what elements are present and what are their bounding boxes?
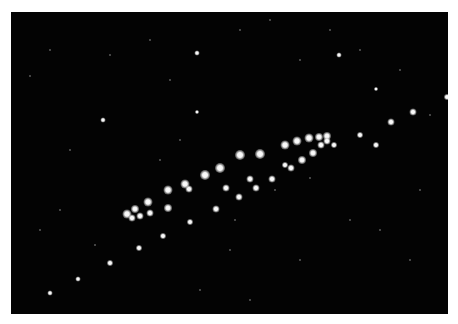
bright-star [373, 142, 379, 148]
bright-star [255, 149, 265, 159]
faint-star [29, 75, 31, 77]
faint-star [69, 149, 71, 151]
faint-star [229, 249, 231, 251]
bright-star [164, 186, 173, 195]
bright-star [144, 198, 153, 207]
bright-star [288, 165, 295, 172]
bright-star [215, 163, 225, 173]
bright-star [200, 170, 210, 180]
bright-star [236, 194, 243, 201]
bright-star [305, 134, 314, 143]
faint-star [169, 79, 171, 81]
bright-star [374, 87, 378, 91]
faint-star [234, 219, 236, 221]
bright-star [187, 219, 193, 225]
bright-star [101, 118, 106, 123]
faint-star [49, 49, 51, 51]
faint-star [109, 54, 111, 56]
bright-star [137, 213, 144, 220]
bright-star [160, 233, 166, 239]
bright-star [223, 185, 230, 192]
bright-star [388, 119, 395, 126]
faint-star [419, 189, 421, 191]
bright-star [309, 149, 317, 157]
faint-star [379, 229, 381, 231]
bright-star [444, 94, 448, 100]
faint-star [149, 39, 151, 41]
bright-star [315, 133, 323, 141]
faint-star [199, 289, 201, 291]
bright-star [195, 110, 199, 114]
bright-star [136, 245, 142, 251]
faint-star [179, 139, 181, 141]
faint-star [249, 299, 251, 301]
bright-star [410, 109, 417, 116]
bright-star [247, 176, 254, 183]
faint-star [409, 259, 411, 261]
bright-star [76, 277, 81, 282]
faint-star [269, 19, 271, 21]
bright-star [293, 137, 302, 146]
faint-star [59, 209, 61, 211]
faint-star [359, 49, 361, 51]
faint-star [399, 69, 401, 71]
bright-star [147, 210, 154, 217]
bright-star [337, 53, 342, 58]
bright-star [324, 138, 331, 145]
faint-star [299, 59, 301, 61]
faint-star [329, 29, 331, 31]
faint-star [309, 177, 311, 179]
faint-star [94, 244, 96, 246]
faint-star [274, 189, 276, 191]
faint-star [159, 159, 161, 161]
bright-star [253, 185, 260, 192]
bright-star [164, 204, 172, 212]
star-field [11, 12, 448, 314]
faint-star [349, 219, 351, 221]
bright-star [213, 206, 220, 213]
bright-star [181, 180, 190, 189]
faint-star [429, 114, 431, 116]
bright-star [281, 141, 290, 150]
bright-star [107, 260, 113, 266]
bright-star [235, 150, 245, 160]
faint-star [299, 259, 301, 261]
bright-star [195, 51, 200, 56]
bright-star [357, 132, 363, 138]
bright-star [269, 176, 276, 183]
faint-star [39, 229, 41, 231]
bright-star [129, 215, 136, 222]
bright-star [48, 291, 53, 296]
bright-star [331, 142, 337, 148]
bright-star [298, 156, 306, 164]
faint-star [239, 29, 241, 31]
